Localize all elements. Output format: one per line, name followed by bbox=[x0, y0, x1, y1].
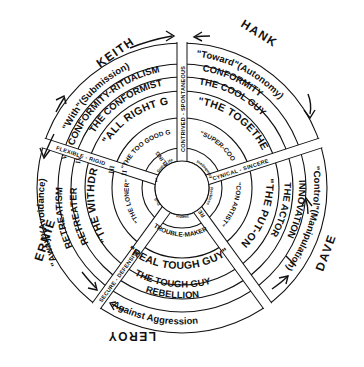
typology-diagram: CONTRIVED - SPONTANEOUS CYNICAL - SINCER… bbox=[0, 0, 364, 367]
svg-text:IV: IV bbox=[74, 155, 83, 164]
ring-label: "CON ARTIST" bbox=[219, 182, 242, 228]
person-hank: HANK bbox=[238, 17, 280, 50]
inner-label: Violent bbox=[175, 213, 189, 219]
spoke-contrived-spontaneous: CONTRIVED - SPONTANEOUS bbox=[177, 42, 187, 162]
person-dave: DAVE bbox=[313, 232, 339, 273]
ring-label: "THE LONER" bbox=[123, 179, 141, 225]
center-circle bbox=[155, 161, 209, 215]
spoke-label: CONTRIVED - SPONTANEOUS bbox=[180, 66, 186, 152]
svg-text:III: III bbox=[107, 165, 116, 175]
person-leroy: LEROY bbox=[107, 329, 156, 343]
spoke-label: CYNICAL - SINCERE bbox=[212, 158, 270, 182]
svg-text:I: I bbox=[155, 176, 158, 184]
